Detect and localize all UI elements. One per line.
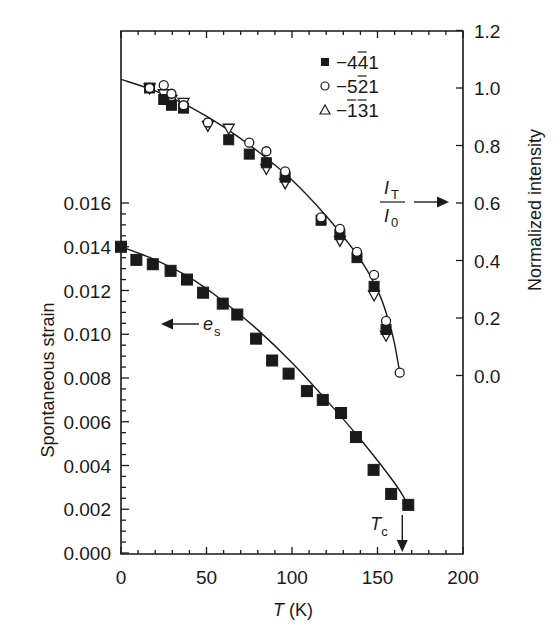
chart-svg: 050100150200 0.0000.0020.0040.0060.0080.… — [0, 0, 560, 640]
open-circle-marker — [317, 213, 326, 222]
left-y-tick-label: 0.010 — [63, 324, 111, 345]
left-y-tick-label: 0.012 — [63, 281, 111, 302]
filled-square-marker — [301, 386, 312, 397]
legend-circle-icon — [321, 82, 329, 90]
left-y-tick-label: 0.008 — [63, 368, 111, 389]
series-2 — [144, 84, 391, 341]
open-circle-marker — [262, 147, 271, 156]
x-tick-label: 200 — [447, 567, 479, 588]
filled-square-marker — [283, 368, 294, 379]
left-y-tick-label: 0.002 — [63, 499, 111, 520]
open-circle-marker — [335, 224, 344, 233]
filled-square-marker — [131, 254, 142, 265]
x-axis-title-unit: (K) — [284, 600, 313, 620]
filled-square-marker — [336, 408, 347, 419]
strain-fit-curve — [121, 247, 408, 505]
open-triangle-marker — [369, 291, 380, 301]
filled-square-marker — [147, 259, 158, 270]
left-y-tick-label: 0.014 — [63, 237, 111, 258]
arrow-down-icon — [397, 540, 408, 552]
filled-square-marker — [198, 287, 209, 298]
right-y-tick-label: 0.0 — [474, 366, 500, 387]
left-y-tick-label: 0.000 — [63, 543, 111, 564]
open-circle-marker — [382, 316, 391, 325]
chart-figure: 050100150200 0.0000.0020.0040.0060.0080.… — [0, 0, 560, 640]
filled-square-marker — [368, 464, 379, 475]
right-y-tick-label: 0.2 — [474, 308, 500, 329]
right-y-axis-title: Normalized intensity — [525, 129, 545, 291]
series-1 — [145, 81, 404, 378]
tc-label-sub: c — [381, 524, 388, 539]
open-circle-marker — [395, 368, 404, 377]
open-circle-marker — [145, 84, 154, 93]
filled-square-marker — [182, 274, 193, 285]
annotations: ITI0esTc — [161, 178, 449, 552]
open-circle-marker — [159, 81, 168, 90]
intensity-ratio-denominator-sub: 0 — [391, 215, 398, 230]
filled-square-marker — [232, 309, 243, 320]
filled-square-marker — [369, 281, 379, 291]
filled-square-marker — [224, 135, 234, 145]
right-y-tick-label: 0.4 — [474, 251, 501, 272]
filled-square-marker — [267, 355, 278, 366]
open-circle-marker — [179, 101, 188, 110]
legend: −441−521−131 — [320, 52, 379, 121]
x-tick-label: 50 — [196, 567, 217, 588]
filled-square-marker — [350, 432, 361, 443]
x-tick-label: 0 — [116, 567, 127, 588]
legend-square-icon — [321, 58, 329, 66]
right-y-tick-label: 1.2 — [474, 21, 500, 42]
open-circle-marker — [245, 138, 254, 147]
intensity-ratio-denominator: I — [384, 206, 389, 226]
filled-square-marker — [386, 488, 397, 499]
arrow-right-icon — [437, 197, 449, 208]
arrow-left-icon — [161, 319, 173, 330]
legend-label: −131 — [336, 100, 379, 121]
filled-square-marker — [244, 149, 254, 159]
right-y-tick-label: 0.6 — [474, 193, 500, 214]
filled-square-marker — [217, 298, 228, 309]
open-circle-marker — [203, 118, 212, 127]
x-tick-label: 150 — [362, 567, 394, 588]
open-circle-marker — [352, 247, 361, 256]
data-points — [116, 81, 414, 511]
strain-label: e — [203, 314, 213, 334]
x-tick-label: 100 — [276, 567, 308, 588]
filled-square-marker — [261, 158, 271, 168]
open-circle-marker — [370, 270, 379, 279]
filled-square-marker — [403, 499, 414, 510]
left-y-tick-label: 0.016 — [63, 193, 111, 214]
open-circle-marker — [281, 167, 290, 176]
x-axis: 050100150200 — [116, 31, 479, 588]
left-y-tick-label: 0.006 — [63, 412, 111, 433]
filled-square-marker — [166, 100, 176, 110]
strain-label-sub: s — [214, 324, 221, 339]
legend-label: −521 — [336, 76, 379, 97]
open-circle-marker — [167, 89, 176, 98]
left-y-tick-label: 0.004 — [63, 456, 111, 477]
left-y-axis-title: Spontaneous strain — [38, 302, 58, 457]
filled-square-marker — [251, 333, 262, 344]
intensity-ratio-numerator-sub: T — [391, 187, 399, 202]
right-y-tick-label: 0.8 — [474, 136, 500, 157]
x-axis-title: T (K) — [273, 600, 313, 620]
filled-square-marker — [116, 241, 127, 252]
fit-curves — [121, 79, 408, 505]
intensity-ratio-numerator: I — [384, 178, 389, 198]
filled-square-marker — [317, 394, 328, 405]
legend-triangle-icon — [320, 105, 330, 114]
legend-label: −441 — [336, 52, 379, 73]
right-y-tick-label: 1.0 — [474, 78, 500, 99]
filled-square-marker — [165, 265, 176, 276]
intensity-fit-curve — [121, 79, 400, 372]
